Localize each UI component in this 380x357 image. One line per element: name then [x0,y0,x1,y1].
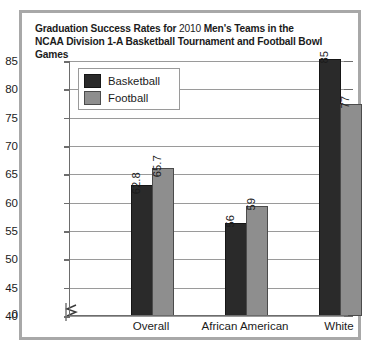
x-axis-label-white: White [324,320,353,332]
gridline [69,174,344,175]
bar-basketball-african-american[interactable]: 56 [225,223,247,316]
title-segment-bold-b: Men's Teams in the [201,23,294,34]
y-axis-tick-mark [344,61,353,62]
y-axis-label: 85 [0,55,18,67]
y-axis-label: 70 [0,140,18,152]
bar-value-label: 56 [224,215,235,228]
legend: Basketball Football [78,68,180,110]
x-axis-label-african-american: African American [202,320,289,332]
x-axis-label-overall: Overall [133,320,169,332]
gridline [69,61,344,62]
gridline [69,118,344,119]
y-axis-tick-nub [64,118,70,120]
legend-label-football: Football [108,92,148,104]
y-axis-label: 65 [0,168,18,180]
y-axis-tick-nub [64,61,70,63]
bar-value-label: 59 [245,198,256,211]
bar-football-white[interactable]: 77 [340,104,362,316]
gridline [69,316,344,317]
y-axis-label: 75 [0,112,18,124]
gridline [69,203,344,204]
y-axis-tick-mark [344,316,353,317]
y-axis-tick-nub [64,288,70,290]
bar-value-label: 77 [339,96,350,109]
y-axis-label-zero: 0 [0,308,18,320]
title-segment-bold-a: Graduation Success Rates for [35,23,179,34]
gridline [69,259,344,260]
title-line-2: NCAA Division 1-A Basketball Tournament … [35,36,322,60]
y-axis-tick-nub [64,89,70,91]
legend-swatch-football [84,91,101,105]
gridline [69,288,344,289]
legend-item-football[interactable]: Football [84,89,175,106]
y-axis-label: 60 [0,197,18,209]
gridline [69,146,344,147]
legend-swatch-basketball [84,74,101,88]
gridline [69,231,344,232]
title-segment-year: 2010 [179,23,201,34]
bar-value-label: 62.8 [130,172,141,194]
chart-figure: Graduation Success Rates for 2010 Men's … [19,10,361,340]
y-axis-label: 45 [0,282,18,294]
y-axis-tick-nub [64,316,70,318]
y-axis-tick-nub [64,231,70,233]
legend-label-basketball: Basketball [108,75,160,87]
y-axis-tick-nub [64,259,70,261]
bar-value-label: 85 [318,51,329,64]
y-axis-label: 55 [0,225,18,237]
bar-basketball-white[interactable]: 85 [319,59,341,316]
legend-item-basketball[interactable]: Basketball [84,72,175,89]
y-axis-label: 80 [0,83,18,95]
y-axis-tick-nub [64,146,70,148]
y-axis-tick-nub [64,174,70,176]
y-axis-label: 50 [0,253,18,265]
chart-title: Graduation Success Rates for 2010 Men's … [35,22,351,62]
y-axis-tick-mark [344,89,353,90]
plot-area: 62.865.756598577 Basketball Football [69,61,344,316]
x-axis-line [69,315,348,317]
y-axis-tick-nub [64,203,70,205]
bar-value-label: 65.7 [151,155,162,177]
bar-football-overall[interactable]: 65.7 [152,168,174,316]
bar-basketball-overall[interactable]: 62.8 [131,185,153,316]
bar-football-african-american[interactable]: 59 [246,206,268,316]
